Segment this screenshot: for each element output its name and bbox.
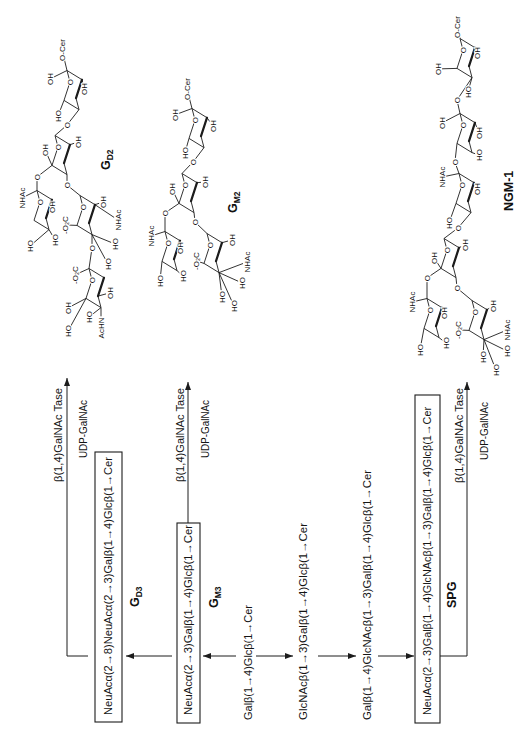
atom-label: OH [438,117,447,129]
bond [458,104,460,114]
glycosidic-oxygen: O [453,285,462,291]
atom-label: OH [64,302,73,314]
bond [219,264,243,273]
carboxylate-label: -O₂C [61,216,70,234]
ring-front-bond [201,118,207,136]
donor-label: UDP-GalNAc [199,400,211,458]
bonds [26,36,503,364]
glycosidic-oxygen: O [423,275,432,281]
bond [456,278,457,284]
atom-label: OH [228,234,237,246]
atom-label: HO [26,240,35,252]
atom-label: HO [51,234,60,246]
ring-front-bond [216,243,222,261]
ring-oxygen: O [181,182,190,188]
glycosidic-oxygen: O [189,159,198,165]
sugar-rings [34,39,487,340]
enzyme-label: β(1,4)GalNAc Tase [52,388,64,482]
gd3-label: GD3 [128,586,144,607]
atom-label: NHAc [114,210,123,231]
ring-oxygen: O [206,242,215,248]
gm3-label-sub: M3 [213,586,223,598]
atom-label: OH [41,144,50,156]
ring-oxygen: O [426,307,435,313]
bond [182,165,190,174]
ring-oxygen: O [459,122,468,128]
nlc4-sequence: Galβ(1→4)GlcNAcβ(1→3)Galβ(1→4)Glcβ(1→Cer [361,470,373,720]
atom-label: HO [179,270,188,282]
ring-oxygen: O [191,117,200,123]
atom-label: OH [171,109,180,121]
atom-label: HO [181,147,190,159]
carboxylate-label: -O₂C [71,266,80,284]
biosynthesis-figure: NeuAcα(2→8)NeuAcα(2→3)Galβ(1→4)Glcβ(1→Ce… [0,0,522,733]
figure-canvas: NeuAcα(2→8)NeuAcα(2→3)Galβ(1→4)Glcβ(1→Ce… [0,0,522,733]
ring-front-bond [64,145,70,163]
atom-label: OH [106,287,115,299]
atom-label: HO [54,110,63,122]
gm2-label: GM2 [226,191,242,213]
bond [456,166,459,174]
bond [70,110,80,122]
ring-front-bond [89,205,95,223]
atom-label: O-Cer [58,39,67,61]
bond [26,191,37,197]
bond [55,128,64,136]
atom-label: OH [440,307,449,319]
atom-label: NHAc [147,226,156,247]
bond [89,252,91,268]
bond [446,114,460,121]
bond [34,230,49,243]
bond [155,232,165,235]
gm2-label-main: G [226,203,240,213]
bond [484,332,503,340]
bond [460,291,472,301]
bond [196,148,205,159]
atom-label: HO [479,351,488,363]
glycosidic-oxygen: O [453,97,462,103]
atom-label: HO [475,149,484,161]
gm3-label: GM3 [207,586,223,608]
atom-label: NHAc [243,252,252,273]
atom-label: OH [48,201,57,213]
bond [54,71,67,78]
bond [93,308,101,315]
atom-label: HO [238,277,247,289]
glycosidic-oxygen: O [33,174,42,180]
gm3-sequence: NeuAcα(2→3)Galβ(1→4)Glcβ(1→Cer [182,525,194,715]
atom-label: HO [464,86,473,98]
ring-oxygen: O [88,277,97,283]
enzyme-label: β(1,4)GalNAc Tase [174,388,186,482]
atom-label: OH [80,83,89,95]
lactosylceramide-sequence: Galβ(1→4)Glcβ(1→Cer [242,605,254,720]
bond [168,203,179,210]
bond [198,225,207,234]
atom-label: O-Cer [453,16,462,38]
atom-label: OH [201,176,210,188]
atom-label: HO [111,238,120,250]
atom-label: NHAc [18,188,27,209]
ring-oxygen: O [459,47,468,53]
atom-label: HO [445,217,454,229]
ngm1-structure: O-Cer O OH OH HO O O OH OH HO O NHAc O O… [408,16,517,376]
bond [446,174,459,177]
atom-label: HO [156,275,165,287]
donor-label: UDP-GalNAc [77,400,89,458]
ring-oxygen: O [471,309,480,315]
spg-label: SPG [445,582,459,608]
glycosidic-oxygen: O [88,245,97,251]
bond [179,109,192,114]
glycosidic-oxygen: O [451,159,460,165]
glycosidic-oxygen: O [63,122,72,128]
bond [79,269,89,274]
bond [455,143,457,158]
atom-label: HO [230,300,239,312]
ring-oxygen: O [66,79,75,85]
ring-front-bond [481,310,487,328]
bond [187,138,189,146]
atom-label: NHAc [503,320,512,341]
atom-label: OH [430,252,439,264]
atom-label: O-Cer [183,78,192,100]
bond [82,80,83,83]
ring-oxygen: O [443,247,452,253]
